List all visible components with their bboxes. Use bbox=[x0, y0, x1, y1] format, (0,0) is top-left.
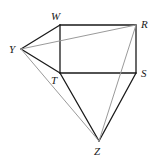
segment-yr bbox=[21, 25, 136, 49]
label-r: R bbox=[140, 18, 148, 30]
label-t: T bbox=[51, 74, 58, 86]
point-labels: W R Y T S Z bbox=[9, 10, 148, 157]
label-s: S bbox=[141, 67, 147, 79]
label-y: Y bbox=[9, 43, 17, 55]
segments bbox=[21, 25, 136, 141]
geometry-diagram: W R Y T S Z bbox=[0, 0, 158, 165]
label-z: Z bbox=[94, 145, 101, 157]
segment-tz bbox=[60, 73, 99, 141]
label-w: W bbox=[51, 10, 61, 22]
segment-yt bbox=[21, 49, 60, 73]
